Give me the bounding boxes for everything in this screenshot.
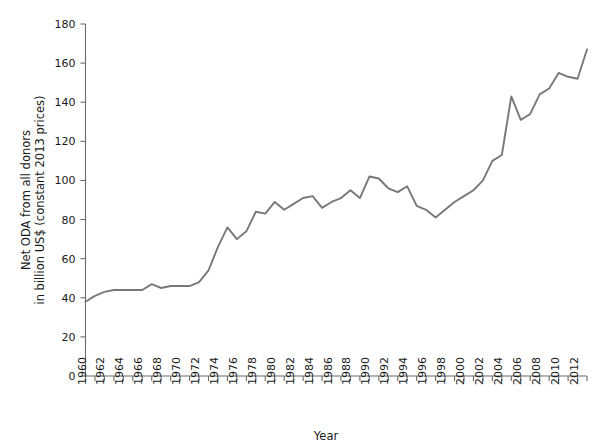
x-axis-tick-label: 2012 — [568, 357, 581, 385]
chart-page: 020406080100120140160180 196019621964196… — [0, 0, 608, 447]
data-series-line — [86, 49, 588, 301]
x-axis-tick-label: 2004 — [492, 357, 505, 385]
y-axis-tick-label: 120 — [55, 135, 76, 148]
y-axis-ticks: 020406080100120140160180 — [55, 18, 86, 383]
line-chart: 020406080100120140160180 196019621964196… — [0, 0, 608, 447]
y-axis-title-line1: Net ODA from all donors — [19, 130, 33, 270]
y-axis: 020406080100120140160180 — [55, 18, 86, 383]
x-axis-tick-label: 2010 — [549, 357, 562, 385]
x-axis-tick-label: 1976 — [227, 357, 240, 385]
x-axis-tick-label: 1992 — [378, 357, 391, 385]
x-axis-title: Year — [313, 429, 339, 443]
y-axis-tick-label: 20 — [62, 331, 76, 344]
x-axis-tick-label: 1990 — [359, 357, 372, 385]
y-axis-tick-label: 0 — [69, 370, 76, 383]
y-axis-tick-label: 40 — [62, 292, 76, 305]
x-axis-tick-label: 1962 — [94, 357, 107, 385]
x-axis-tick-label: 1966 — [132, 357, 145, 385]
x-axis-tick-labels: 1960196219641966196819701972197419761978… — [76, 357, 581, 385]
x-axis-tick-label: 2008 — [530, 357, 543, 385]
x-axis-tick-label: 1982 — [284, 357, 297, 385]
y-axis-title-line2: in billion US$ (constant 2013 prices) — [33, 95, 47, 304]
x-axis-tick-label: 1968 — [151, 357, 164, 385]
x-axis-tick-label: 1980 — [265, 357, 278, 385]
x-axis-tick-label: 1994 — [397, 357, 410, 385]
y-axis-tick-label: 60 — [62, 253, 76, 266]
x-axis-tick-label: 1996 — [416, 357, 429, 385]
x-axis-tick-label: 1984 — [303, 357, 316, 385]
x-axis-tick-label: 1960 — [76, 357, 89, 385]
x-axis-tick-label: 1998 — [435, 357, 448, 385]
y-axis-tick-label: 160 — [55, 57, 76, 70]
y-axis-tick-label: 140 — [55, 96, 76, 109]
x-axis-tick-label: 1964 — [113, 357, 126, 385]
plot-area — [86, 49, 588, 301]
x-axis-tick-label: 2000 — [454, 357, 467, 385]
x-axis-tick-label: 1978 — [246, 357, 259, 385]
x-axis-tick-label: 2006 — [511, 357, 524, 385]
y-axis-tick-label: 180 — [55, 18, 76, 31]
x-axis-tick-label: 2002 — [473, 357, 486, 385]
x-axis-tick-label: 1974 — [208, 357, 221, 385]
x-axis-tick-label: 1988 — [340, 357, 353, 385]
x-axis: 1960196219641966196819701972197419761978… — [76, 357, 588, 385]
y-axis-tick-label: 100 — [55, 174, 76, 187]
x-axis-tick-label: 1986 — [322, 357, 335, 385]
x-axis-tick-label: 1972 — [189, 357, 202, 385]
x-axis-tick-label: 1970 — [170, 357, 183, 385]
y-axis-tick-label: 80 — [62, 214, 76, 227]
